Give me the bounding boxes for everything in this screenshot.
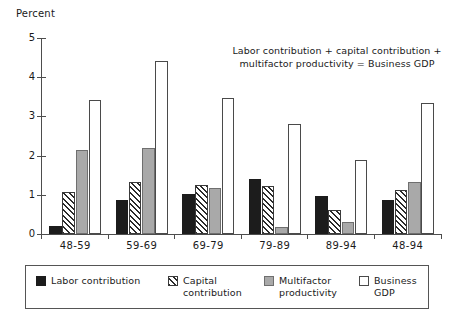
y-axis-title: Percent bbox=[16, 8, 55, 19]
x-tick-mark bbox=[174, 234, 175, 239]
bar-group bbox=[41, 38, 108, 234]
legend-item-label: Business GDP bbox=[374, 275, 428, 299]
chart-annotation: Labor contribution + capital contributio… bbox=[232, 44, 442, 70]
bar-capital bbox=[395, 190, 408, 234]
x-tick-mark bbox=[441, 234, 442, 239]
legend-item-label: Capital contribution bbox=[183, 275, 242, 299]
legend-item-gdp[interactable]: Business GDP bbox=[359, 275, 428, 299]
bar-labor bbox=[382, 200, 395, 234]
y-tick-label: 3 bbox=[29, 111, 35, 121]
bar-group bbox=[108, 38, 175, 234]
bar-chart-figure: Percent 012345 48-5959-6969-7979-8989-94… bbox=[0, 0, 453, 322]
bar-gdp bbox=[222, 98, 235, 234]
y-tick-label: 0 bbox=[29, 229, 35, 239]
bar-capital bbox=[328, 210, 341, 234]
bar-capital bbox=[195, 185, 208, 234]
bar-mfp bbox=[342, 222, 355, 234]
outline-white-swatch bbox=[359, 276, 369, 286]
bar-capital bbox=[129, 182, 142, 234]
y-tick-label: 2 bbox=[29, 151, 35, 161]
x-tick-mark bbox=[108, 234, 109, 239]
x-tick-label: 48-59 bbox=[60, 240, 91, 251]
bar-mfp bbox=[408, 182, 421, 234]
bar-gdp bbox=[421, 103, 434, 234]
chart-legend: Labor contributionCapital contributionMu… bbox=[25, 265, 429, 309]
bar-gdp bbox=[288, 124, 301, 234]
bar-labor bbox=[315, 196, 328, 234]
bar-mfp bbox=[142, 148, 155, 234]
hatched-swatch bbox=[168, 276, 178, 286]
bar-gdp bbox=[355, 160, 368, 234]
bar-mfp bbox=[76, 150, 89, 234]
bar-gdp bbox=[89, 100, 102, 234]
bar-capital bbox=[262, 186, 275, 234]
x-tick-label: 69-79 bbox=[193, 240, 224, 251]
x-tick-mark bbox=[374, 234, 375, 239]
x-tick-label: 59-69 bbox=[126, 240, 157, 251]
x-tick-mark bbox=[241, 234, 242, 239]
bar-gdp bbox=[155, 61, 168, 234]
y-tick-label: 4 bbox=[29, 72, 35, 82]
bar-labor bbox=[182, 194, 195, 234]
bar-labor bbox=[116, 200, 129, 234]
x-tick-mark bbox=[41, 234, 42, 239]
legend-item-capital[interactable]: Capital contribution bbox=[168, 275, 242, 299]
annotation-line: multifactor productivity = Business GDP bbox=[239, 58, 434, 69]
bar-capital bbox=[62, 192, 75, 234]
bar-labor bbox=[49, 226, 62, 234]
bar-labor bbox=[249, 179, 262, 234]
x-tick-label: 48-94 bbox=[392, 240, 423, 251]
y-tick-label: 5 bbox=[29, 33, 35, 43]
legend-item-labor[interactable]: Labor contribution bbox=[36, 275, 140, 287]
solid-black-swatch bbox=[36, 276, 46, 286]
x-tick-label: 79-89 bbox=[259, 240, 290, 251]
legend-item-mfp[interactable]: Multifactor productivity bbox=[264, 275, 337, 299]
x-tick-mark bbox=[307, 234, 308, 239]
solid-gray-swatch bbox=[264, 276, 274, 286]
annotation-line: Labor contribution + capital contributio… bbox=[232, 45, 441, 56]
bar-group bbox=[174, 38, 241, 234]
legend-item-label: Multifactor productivity bbox=[279, 275, 337, 299]
legend-item-label: Labor contribution bbox=[51, 275, 140, 287]
bar-mfp bbox=[275, 227, 288, 234]
y-tick-label: 1 bbox=[29, 190, 35, 200]
x-tick-label: 89-94 bbox=[326, 240, 357, 251]
bar-mfp bbox=[209, 188, 222, 234]
